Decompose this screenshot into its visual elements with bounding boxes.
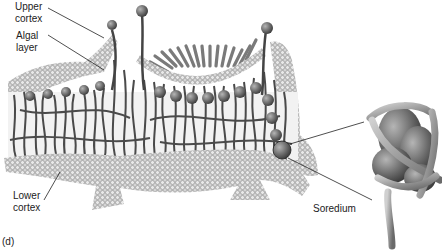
- lower-cortex: [4, 150, 310, 210]
- label-algal-layer: Algal layer: [16, 30, 38, 54]
- label-upper-cortex: Upper cortex: [15, 1, 42, 25]
- label-soredium: Soredium: [313, 203, 356, 215]
- soredium-inset-marker: [273, 141, 291, 159]
- label-lower-cortex: Lower cortex: [13, 190, 40, 214]
- panel-label: (d): [2, 236, 14, 248]
- soredium-enlarged: [370, 106, 440, 246]
- lichen-cross-section-diagram: [0, 0, 442, 251]
